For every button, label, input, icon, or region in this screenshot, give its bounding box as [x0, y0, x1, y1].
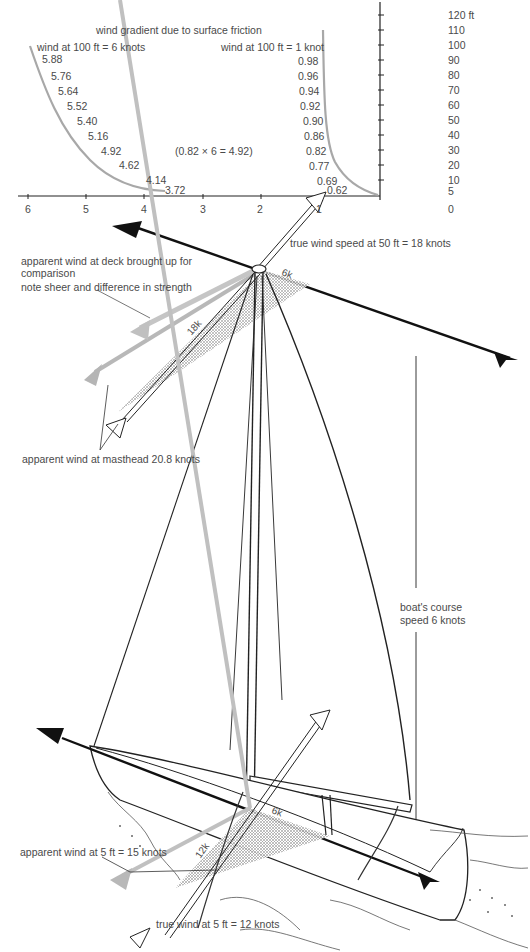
right-value: 0.90: [303, 115, 323, 127]
y-tick: 70: [448, 84, 460, 96]
note-sheer-label: note sheer and difference in strength: [21, 281, 192, 293]
sail-leech: [266, 274, 410, 800]
mast-left-edge: [246, 272, 255, 810]
apparent-deck-label-line1: apparent wind at deck brought up for: [21, 255, 192, 267]
left-curve-label: wind at 100 ft = 6 knots: [37, 41, 145, 53]
left-value: 5.76: [51, 70, 71, 82]
gradient-curve-6-knots: [30, 46, 165, 191]
sailing-wind-diagram: [0, 0, 530, 952]
y-tick: 120 ft: [448, 9, 474, 21]
right-value: 0.92: [300, 100, 320, 112]
right-curve-label: wind at 100 ft = 1 knot: [221, 41, 324, 53]
left-value: 4.92: [101, 145, 121, 157]
y-tick: 30: [448, 144, 460, 156]
masthead-fitting: [252, 265, 266, 273]
gradient-curve-1-knot: [323, 30, 378, 195]
apparent-masthead-label: apparent wind at masthead 20.8 knots: [22, 453, 200, 465]
right-value: 0.94: [299, 85, 319, 97]
y-tick: 60: [448, 99, 460, 111]
right-value: 0.77: [309, 160, 329, 172]
y-tick: 40: [448, 129, 460, 141]
y-tick: 0: [448, 203, 454, 215]
left-value: 5.40: [77, 115, 97, 127]
right-value: 0.82: [306, 145, 326, 157]
y-tick: 90: [448, 54, 460, 66]
left-value: 5.64: [58, 85, 78, 97]
y-tick: 80: [448, 69, 460, 81]
left-value: 4.14: [146, 174, 166, 186]
mast-right-edge: [254, 272, 263, 810]
x-tick: 6: [25, 203, 31, 215]
right-value: 0.98: [298, 55, 318, 67]
apparent-5ft-label: apparent wind at 5 ft = 15 knots: [20, 846, 167, 858]
course-arrowhead-top-right: [494, 352, 518, 368]
formula-annotation: (0.82 × 6 = 4.92): [175, 145, 253, 157]
true-wind-50ft-label: true wind speed at 50 ft = 18 knots: [290, 237, 451, 249]
boat-course-label-line1: boat's course: [400, 601, 462, 613]
y-tick: 100: [448, 39, 466, 51]
true-5ft-label: true wind at 5 ft = 12 knots: [156, 918, 279, 930]
x-tick: 4: [141, 203, 147, 215]
y-tick: 5: [448, 185, 454, 197]
y-tick: 110: [448, 24, 465, 36]
course-arrowhead-bottom-left: [36, 728, 64, 744]
x-tick: 1: [316, 203, 322, 215]
chart-title: wind gradient due to surface friction: [96, 24, 262, 36]
left-value: 3.72: [165, 184, 185, 196]
y-tick: 50: [448, 114, 460, 126]
right-value: 0.96: [298, 70, 318, 82]
right-value: 0.62: [327, 184, 347, 196]
course-arrowhead-top-left: [112, 221, 142, 238]
apparent-deck-label-line2: comparison: [21, 267, 75, 279]
x-tick: 5: [83, 203, 89, 215]
y-tick: 20: [448, 159, 460, 171]
right-value: 0.86: [304, 130, 324, 142]
left-value: 5.16: [88, 130, 108, 142]
boat-course-label-line2: speed 6 knots: [400, 614, 465, 626]
x-tick: 2: [257, 203, 263, 215]
x-tick: 3: [200, 203, 206, 215]
left-value: 4.62: [119, 159, 139, 171]
left-value: 5.88: [42, 53, 62, 65]
left-value: 5.52: [67, 100, 87, 112]
